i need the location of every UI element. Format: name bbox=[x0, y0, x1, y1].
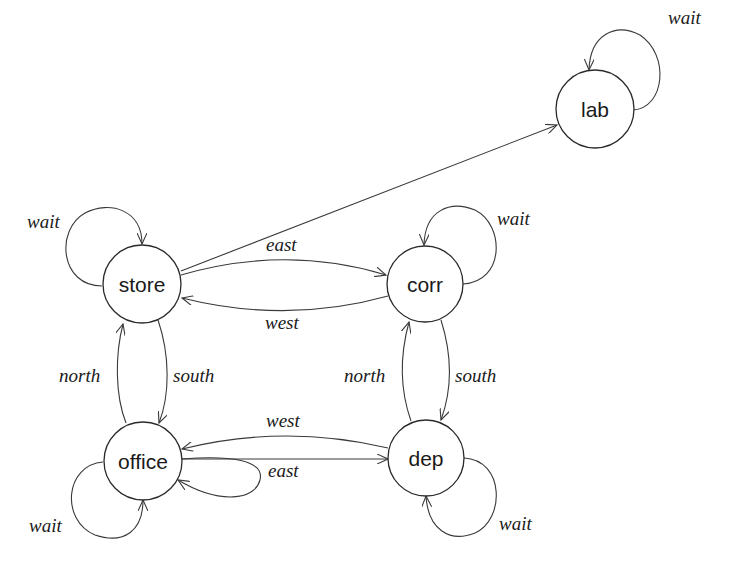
edge-store-to-lab bbox=[181, 125, 557, 271]
node-office-label: office bbox=[118, 450, 168, 473]
node-store-label: store bbox=[119, 273, 166, 296]
label-lab-wait: wait bbox=[668, 7, 701, 28]
label-store-wait: wait bbox=[27, 211, 60, 232]
edge-office-east-loop bbox=[178, 458, 260, 497]
label-store-south: south bbox=[173, 365, 214, 386]
node-office: office bbox=[104, 422, 182, 500]
node-dep-label: dep bbox=[408, 447, 443, 470]
label-office-wait: wait bbox=[29, 515, 62, 536]
edge-dep-to-corr-north bbox=[402, 322, 411, 421]
edge-corr-to-store-west bbox=[182, 296, 388, 311]
label-corr-south: south bbox=[455, 365, 496, 386]
state-diagram: lab store corr office dep wait wait east… bbox=[0, 0, 734, 566]
label-corr-west: west bbox=[265, 312, 300, 333]
label-office-north: north bbox=[59, 365, 100, 386]
node-lab-label: lab bbox=[581, 98, 609, 121]
node-corr-label: corr bbox=[407, 273, 443, 296]
label-dep-north: north bbox=[344, 365, 385, 386]
edge-corr-to-dep-south bbox=[441, 320, 449, 420]
label-office-east: east bbox=[268, 460, 299, 481]
label-corr-wait: wait bbox=[497, 208, 530, 229]
edge-office-to-store-north bbox=[117, 324, 126, 423]
label-store-east: east bbox=[266, 234, 297, 255]
label-dep-wait: wait bbox=[499, 513, 532, 534]
node-lab: lab bbox=[556, 70, 634, 148]
edge-store-to-corr-east bbox=[181, 260, 386, 275]
node-store: store bbox=[103, 245, 181, 323]
edge-store-to-office-south bbox=[158, 320, 167, 423]
node-dep: dep bbox=[388, 420, 464, 496]
label-dep-west: west bbox=[266, 410, 301, 431]
edge-dep-to-office-west bbox=[182, 436, 388, 449]
node-corr: corr bbox=[387, 246, 463, 322]
